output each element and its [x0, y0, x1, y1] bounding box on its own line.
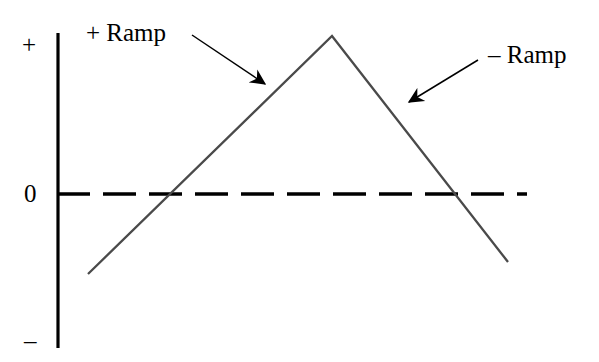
negative-ramp-callout-arrow — [409, 60, 478, 102]
negative-ramp-label: – Ramp — [488, 42, 566, 67]
axis-label-positive: + — [22, 32, 36, 57]
triangle-wave-trace — [88, 36, 508, 274]
positive-ramp-callout-arrow — [192, 35, 265, 84]
axis-label-negative: – — [24, 328, 37, 353]
axis-label-zero: 0 — [24, 181, 37, 206]
positive-ramp-label: + Ramp — [86, 20, 166, 45]
ramp-waveform-figure: + 0 – + Ramp – Ramp — [0, 0, 599, 362]
